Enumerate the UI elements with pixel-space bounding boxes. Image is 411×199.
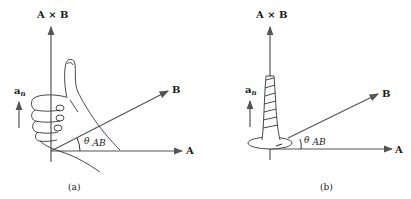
label-b: B <box>382 88 390 99</box>
label-an: an <box>245 84 257 97</box>
angle-arc <box>77 138 80 151</box>
caption-b: (b) <box>320 182 333 192</box>
panel-b: A × B A B θAB an (b) <box>245 9 403 192</box>
vector-b <box>288 94 378 138</box>
angle-label: θAB <box>304 135 326 147</box>
right-hand-icon <box>31 59 120 172</box>
screw-icon <box>248 76 292 149</box>
label-a-cross-b: A × B <box>255 9 288 20</box>
label-a-cross-b: A × B <box>36 9 69 20</box>
cross-product-diagram: A × B A B θAB an (a) <box>0 0 411 199</box>
label-a: A <box>394 144 403 155</box>
label-an: an <box>14 85 26 98</box>
label-b: B <box>172 84 180 95</box>
label-a: A <box>185 145 194 156</box>
vector-b <box>51 91 168 151</box>
angle-arc <box>300 139 301 149</box>
caption-a: (a) <box>68 182 80 192</box>
angle-label: θAB <box>84 136 106 148</box>
panel-a: A × B A B θAB an (a) <box>14 9 194 192</box>
